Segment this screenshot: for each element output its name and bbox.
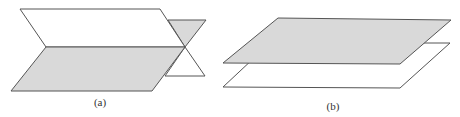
panel-a-label: (a): [94, 96, 107, 109]
white-plane-upper: [20, 9, 185, 47]
planes-diagram: (a) (b): [0, 0, 460, 117]
panel-b-parallel-planes: (b): [223, 18, 451, 113]
gray-horizontal-plane: [11, 47, 185, 91]
panel-b-label: (b): [327, 100, 340, 113]
panel-a-intersecting-planes: (a): [11, 9, 206, 109]
